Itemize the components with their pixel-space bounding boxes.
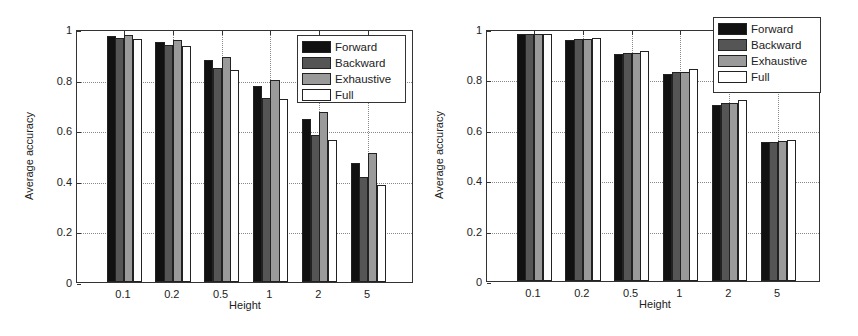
bar-full [640,51,649,281]
y-tick-mark [487,283,491,284]
legend-label: Exhaustive [751,55,807,67]
legend-item-forward: Forward [718,21,816,37]
x-tick-label: 0.2 [567,287,597,299]
bar-full [543,34,552,281]
y-tick-mark [487,182,491,183]
x-axis-label: Height [615,298,695,310]
legend-swatch [718,23,747,35]
legend-item-exhaustive: Exhaustive [718,53,816,69]
y-tick-label: 0.6 [452,125,482,137]
legend: ForwardBackwardExhaustiveFull [713,17,821,93]
bar-full [787,140,796,281]
legend-swatch [718,39,747,51]
y-tick-mark [487,132,491,133]
y-axis-label: Average accuracy [433,85,445,225]
legend-label: Backward [751,39,802,51]
y-tick-label: 0.8 [452,74,482,86]
bar-full [738,100,747,281]
right-bar-chart: 00.20.40.60.810.10.20.5125HeightAverage … [0,0,858,336]
legend-label: Full [751,71,770,83]
legend-item-backward: Backward [718,37,816,53]
y-tick-mark [487,31,491,32]
x-tick-mark [583,31,584,35]
legend-swatch [718,55,747,67]
y-tick-label: 0.4 [452,175,482,187]
y-tick-label: 1 [452,24,482,36]
y-tick-mark [487,81,491,82]
bar-full [689,69,698,281]
legend-label: Forward [751,23,793,35]
x-tick-mark [680,31,681,35]
legend-swatch [718,71,747,83]
y-tick-label: 0.2 [452,226,482,238]
legend-item-full: Full [718,69,816,85]
x-tick-label: 2 [713,287,743,299]
y-tick-mark [487,233,491,234]
x-tick-mark [632,31,633,35]
bar-full [592,38,601,281]
x-tick-label: 0.1 [518,287,548,299]
y-tick-label: 0 [452,276,482,288]
x-tick-label: 5 [762,287,792,299]
